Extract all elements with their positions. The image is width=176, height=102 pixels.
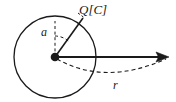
radius-line-to-charge — [55, 18, 83, 57]
physics-diagram-svg: Q[C] a r — [0, 0, 176, 102]
radius-r-label: r — [113, 78, 118, 92]
center-point-dot — [51, 53, 60, 62]
charge-label: Q[C] — [79, 2, 107, 17]
distance-r-dashed-curve — [57, 59, 166, 73]
figure-container: Q[C] a r — [0, 0, 176, 102]
radius-a-label: a — [41, 25, 47, 39]
